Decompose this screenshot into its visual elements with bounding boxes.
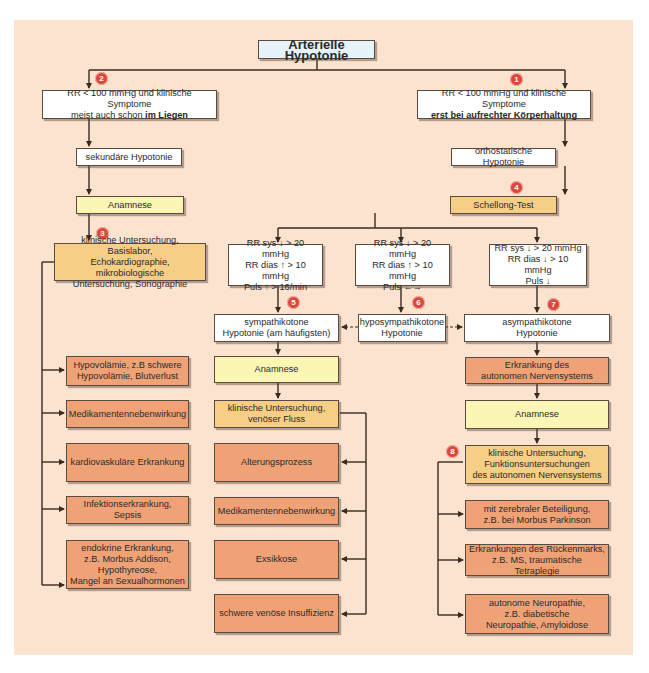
criteria-supine-prefix: meist auch schon	[71, 110, 145, 120]
cause-spinal-cord-disease: Erkrankungen des Rückenmarks, z.B. MS, t…	[465, 544, 609, 576]
cause-cerebral-involvement: mit zerebraler Beteiligung, z.B. bei Mor…	[465, 500, 609, 529]
criteria-upright-bold: erst bei aufrechter Körperhaltung	[431, 110, 577, 121]
sympathikoton-anamnese-box: Anamnese	[214, 356, 339, 383]
result-hyposympathikoton-box: RR sys ↓ > 20 mmHg RR dias ↑ > 10 mmHg P…	[355, 244, 450, 286]
criteria-supine-bold: im Liegen	[145, 110, 188, 120]
sympathikotone-hypotension-box: sympathikotone Hypotonie (am häufigsten)	[214, 314, 339, 342]
sympathikoton-exam-box: klinische Untersuchung, venöser Fluss	[214, 400, 339, 428]
autonomic-disease-box: Erkrankung des autonomen Nervensystems	[465, 357, 609, 384]
left-anamnese-box: Anamnese	[76, 196, 184, 214]
badge-2: 2	[95, 72, 108, 85]
hyposympathikotone-hypotension-box: hyposympathikotone Hypotonie	[358, 314, 446, 342]
cause-cardiovascular: kardiovaskuläre Erkrankung	[66, 443, 189, 482]
cause-autonomic-neuropathy: autonome Neuropathie, z.B. diabetische N…	[465, 594, 609, 634]
result-asympathikoton-box: RR sys ↓ > 20 mmHg RR dias ↓ > 10 mmHg P…	[489, 244, 587, 286]
cause-medication-left: Medikamentennebenwirkung	[66, 400, 189, 428]
criteria-supine-line1: RR < 100 mmHg und klinische Symptome	[46, 88, 213, 110]
badge-5: 5	[287, 296, 300, 309]
criteria-supine-box: RR < 100 mmHg und klinische Symptome mei…	[42, 90, 217, 119]
asympathikoton-exam-box: klinische Untersuchung, Funktionsuntersu…	[465, 445, 609, 484]
cause-endocrine: endokrine Erkrankung, z.B. Morbus Addiso…	[66, 540, 189, 589]
cause-aging: Alterungsprozess	[214, 443, 339, 482]
badge-6: 6	[412, 296, 425, 309]
criteria-supine-line2: meist auch schon im Liegen	[71, 110, 188, 121]
title-box: Arterielle Hypotonie	[258, 40, 375, 59]
cause-hypovolemia: Hypovolämie, z.B schwere Hypovolämie, Bl…	[66, 356, 189, 386]
orthostatic-hypotension-box: orthostatische Hypotonie	[451, 148, 556, 166]
badge-7: 7	[547, 298, 560, 311]
asympathikotone-hypotension-box: asympathikotone Hypotonie	[464, 314, 610, 342]
cause-exsiccosis: Exsikkose	[214, 540, 339, 579]
criteria-upright-line1: RR < 100 mmHg und klinische Symptome	[421, 88, 587, 110]
badge-4: 4	[510, 181, 523, 194]
cause-medication-sympathikoton: Medikamentennebenwirkung	[214, 497, 339, 525]
cause-infection: Infektionserkrankung, Sepsis	[66, 496, 189, 524]
cause-venous-insufficiency: schwere venöse Insuffizienz	[214, 594, 339, 633]
secondary-hypotension-box: sekundäre Hypotonie	[76, 148, 182, 166]
badge-1: 1	[510, 73, 523, 86]
criteria-upright-box: RR < 100 mmHg und klinische Symptome ers…	[417, 90, 591, 119]
left-exam-box: klinische Untersuchung, Basislabor, Echo…	[54, 243, 206, 281]
badge-8: 8	[446, 445, 459, 458]
result-sympathikoton-box: RR sys ↓ > 20 mmHg RR dias ↑ > 10 mmHg P…	[228, 244, 323, 286]
schellong-test-box: Schellong-Test	[450, 196, 557, 214]
asympathikoton-anamnese-box: Anamnese	[465, 400, 609, 429]
